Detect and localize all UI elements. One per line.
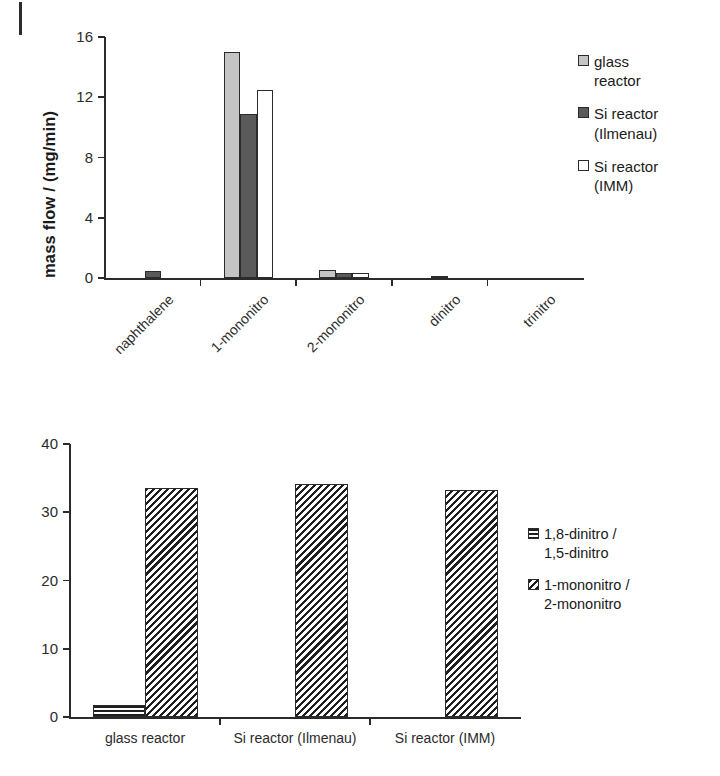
ratio-chart: 010203040glass reactorSi reactor (Ilmena… <box>0 400 720 776</box>
y-tick-label-bottom-4: 40 <box>0 436 58 451</box>
legend-item-top-0: glass reactor <box>578 52 718 90</box>
x-tick-bottom-1 <box>219 718 221 725</box>
legend-swatch-top-2 <box>578 160 589 171</box>
legend-label-bottom-0: 1,8-dinitro / 1,5-dinitro <box>544 525 617 562</box>
y-tick-bottom-1 <box>63 648 70 650</box>
y-tick-label-bottom-0: 0 <box>0 709 58 724</box>
x-tick-top-4 <box>487 279 489 286</box>
bar-top-1-1 <box>240 114 257 278</box>
y-tick-bottom-4 <box>63 443 70 445</box>
x-tick-label-bottom-2: Si reactor (IMM) <box>345 731 545 745</box>
x-tick-label-top-4: trinitro <box>463 292 558 387</box>
y-tick-label-bottom-3: 30 <box>0 504 58 519</box>
y-tick-label-top-0: 0 <box>33 270 93 285</box>
bar-bottom-2-1 <box>445 490 498 717</box>
legend-item-top-2: Si reactor (IMM) <box>578 157 718 195</box>
y-tick-label-bottom-1: 10 <box>0 641 58 656</box>
legend-label-top-1: Si reactor (Ilmenau) <box>594 104 658 142</box>
y-tick-label-top-2: 8 <box>33 150 93 165</box>
plot-area-top: 0481216naphthalene1-mononitro2-mononitro… <box>105 37 583 278</box>
legend-label-top-2: Si reactor (IMM) <box>594 157 658 195</box>
x-tick-top-3 <box>391 279 393 286</box>
y-tick-bottom-3 <box>63 511 70 513</box>
legend-swatch-top-1 <box>578 107 589 118</box>
legend-item-bottom-0: 1,8-dinitro / 1,5-dinitro <box>528 525 708 562</box>
plot-area-bottom: 010203040glass reactorSi reactor (Ilmena… <box>70 444 520 717</box>
bar-bottom-1-1 <box>295 484 348 717</box>
bar-top-1-0 <box>224 52 241 278</box>
legend-item-bottom-1: 1-mononitro / 2-mononitro <box>528 576 708 613</box>
bar-top-1-2 <box>257 90 274 278</box>
x-tick-label-top-3: dinitro <box>368 292 463 387</box>
legend-label-bottom-1: 1-mononitro / 2-mononitro <box>544 576 629 613</box>
y-tick-label-bottom-2: 20 <box>0 573 58 588</box>
x-tick-top-1 <box>200 279 202 286</box>
y-tick-label-top-3: 12 <box>33 89 93 104</box>
x-axis-line-top <box>104 278 584 280</box>
bar-top-2-1 <box>336 273 353 278</box>
bar-top-3-1 <box>431 276 448 278</box>
y-tick-label-top-4: 16 <box>33 29 93 44</box>
y-tick-top-2 <box>98 157 105 159</box>
y-tick-label-top-1: 4 <box>33 210 93 225</box>
legend-swatch-bottom-1 <box>528 579 539 590</box>
x-tick-top-2 <box>295 279 297 286</box>
x-tick-label-top-1: 1-mononitro <box>177 292 272 387</box>
legend-label-top-0: glass reactor <box>594 52 641 90</box>
y-tick-top-4 <box>98 36 105 38</box>
bar-bottom-0-0 <box>93 705 146 717</box>
bar-top-0-1 <box>145 271 162 278</box>
x-tick-label-top-0: naphthalene <box>81 292 176 387</box>
y-tick-top-1 <box>98 217 105 219</box>
x-tick-bottom-2 <box>369 718 371 725</box>
y-tick-top-0 <box>98 277 105 279</box>
legend-swatch-top-0 <box>578 55 589 66</box>
y-axis-title-top: mass flow / (mg/min) <box>40 111 59 278</box>
legend-top: glass reactorSi reactor (Ilmenau)Si reac… <box>578 52 718 209</box>
y-tick-top-3 <box>98 96 105 98</box>
legend-bottom: 1,8-dinitro / 1,5-dinitro1-mononitro / 2… <box>528 525 708 627</box>
bar-bottom-0-1 <box>145 488 198 717</box>
y-tick-bottom-0 <box>63 716 70 718</box>
bar-top-2-0 <box>319 270 336 278</box>
mass-flow-chart: mass flow / (mg/min) 0481216naphthalene1… <box>0 0 720 390</box>
x-axis-line-bottom <box>69 717 521 719</box>
legend-swatch-bottom-0 <box>528 528 539 539</box>
x-tick-label-top-2: 2-mononitro <box>272 292 367 387</box>
bar-top-2-2 <box>352 273 369 278</box>
legend-item-top-1: Si reactor (Ilmenau) <box>578 104 718 142</box>
y-tick-bottom-2 <box>63 580 70 582</box>
